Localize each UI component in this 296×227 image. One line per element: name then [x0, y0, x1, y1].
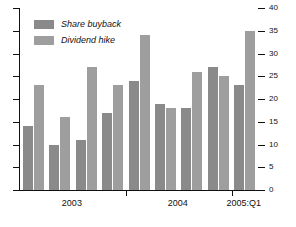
y-tick-label-40: 40	[269, 4, 278, 12]
y-tick-label-10: 10	[269, 141, 278, 149]
y-tick-label-35: 35	[269, 27, 278, 35]
legend-item-share-buyback: Share buyback	[34, 18, 121, 30]
bar-2004-Q1-dividend-hike	[140, 35, 150, 190]
legend-item-dividend-hike: Dividend hike	[34, 34, 121, 46]
bar-2004-Q2-dividend-hike	[166, 108, 176, 190]
x-axis-label-2005-Q1: 2005:Q1	[227, 199, 262, 208]
y-tick-right-30	[258, 54, 265, 55]
x-axis-label-2004: 2004	[168, 199, 188, 208]
y-tick-right-35	[258, 31, 265, 32]
y-tick-left-25	[13, 76, 20, 77]
y-tick-label-15: 15	[269, 118, 278, 126]
bar-chart: 0510152025303540 Share buyback Dividend …	[0, 0, 296, 227]
bar-2003-Q3-share-buyback	[76, 140, 86, 190]
y-tick-left-5	[13, 167, 20, 168]
bar-2003-Q3-dividend-hike	[87, 67, 97, 190]
bar-2005-Q1-share-buyback	[234, 85, 244, 190]
bar-2003-Q4-dividend-hike	[113, 85, 123, 190]
y-tick-label-20: 20	[269, 95, 278, 103]
y-tick-label-0: 0	[269, 186, 273, 194]
legend-swatch-share-buyback	[34, 20, 54, 29]
bar-2003-Q2-dividend-hike	[60, 117, 70, 190]
y-tick-left-30	[13, 54, 20, 55]
bar-2004-Q3-share-buyback	[181, 108, 191, 190]
x-axis-label-2003: 2003	[62, 199, 82, 208]
x-group-divider	[126, 190, 127, 196]
bar-2004-Q2-share-buyback	[155, 104, 165, 190]
bar-2003-Q4-share-buyback	[102, 113, 112, 190]
y-tick-left-15	[13, 122, 20, 123]
bar-2004-Q4-dividend-hike	[219, 76, 229, 190]
bar-2003-Q1-share-buyback	[23, 126, 33, 190]
bar-2004-Q4-share-buyback	[208, 67, 218, 190]
y-tick-left-0	[13, 190, 20, 191]
y-tick-right-20	[258, 99, 265, 100]
x-group-divider	[232, 190, 233, 196]
y-tick-right-40	[258, 8, 265, 9]
y-tick-label-25: 25	[269, 72, 278, 80]
bar-2003-Q1-dividend-hike	[34, 85, 44, 190]
y-tick-left-35	[13, 31, 20, 32]
x-axis	[19, 190, 258, 191]
y-tick-right-0	[258, 190, 265, 191]
y-tick-right-5	[258, 167, 265, 168]
bar-2004-Q3-dividend-hike	[192, 72, 202, 190]
legend-swatch-dividend-hike	[34, 36, 54, 45]
legend-label-dividend-hike: Dividend hike	[61, 36, 115, 45]
y-tick-right-10	[258, 145, 265, 146]
y-tick-label-5: 5	[269, 163, 273, 171]
y-tick-left-40	[13, 8, 20, 9]
y-tick-left-10	[13, 145, 20, 146]
y-tick-right-25	[258, 76, 265, 77]
legend-label-share-buyback: Share buyback	[61, 20, 121, 29]
bar-2004-Q1-share-buyback	[129, 81, 139, 190]
chart-legend: Share buyback Dividend hike	[34, 18, 121, 50]
y-tick-right-15	[258, 122, 265, 123]
bar-2005-Q1-dividend-hike	[245, 31, 255, 190]
y-tick-left-20	[13, 99, 20, 100]
y-tick-label-30: 30	[269, 50, 278, 58]
bar-2003-Q2-share-buyback	[49, 145, 59, 191]
